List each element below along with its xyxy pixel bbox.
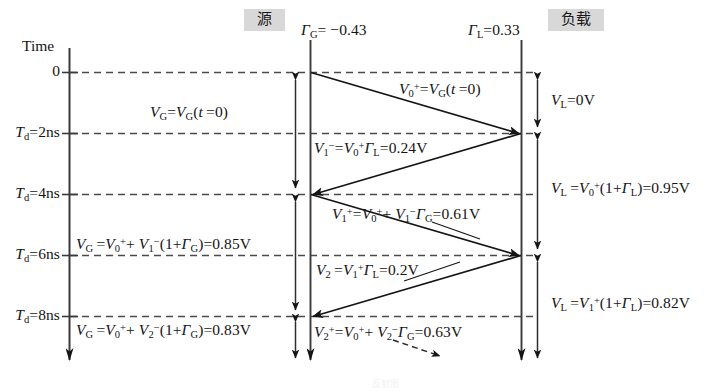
time-axis-title: Time <box>22 38 54 54</box>
time-axis <box>62 48 78 360</box>
load-header: 负载 <box>548 9 604 31</box>
wave-label-v2-minus: V2 =V1+ΓL=0.2V <box>316 262 419 280</box>
bottom-caption: 反射图 <box>372 380 399 389</box>
gamma-g-label: ΓG= −0.43 <box>301 22 367 40</box>
vl-label-first: VL =V0+(1+ΓL)=0.95V <box>551 180 690 198</box>
wave-label-v2-plus: V2+=V0++ V2−ΓG=0.63V <box>314 324 462 342</box>
tick-label-6ns: Td=6ns <box>0 246 60 264</box>
tick-label-8ns: Td=8ns <box>0 307 60 325</box>
vl-label-zero: VL=0V <box>551 92 595 110</box>
tick-label-0: 0 <box>24 63 60 79</box>
tick-label-2ns: Td=2ns <box>0 124 60 142</box>
gamma-l-label: ΓL=0.33 <box>468 22 520 40</box>
vl-label-second: VL =V1+(1+ΓL)=0.82V <box>551 295 690 313</box>
wave-label-v1-plus: V1+=V0++ V1−ΓG=0.61V <box>332 206 480 224</box>
vg-label-initial: VG=VG(t =0) <box>150 104 228 122</box>
tick-label-4ns: Td=4ns <box>0 185 60 203</box>
wave-v1-plus <box>311 195 519 256</box>
vg-label-second: VG =V0++ V1−(1+ΓG)=0.85V <box>76 236 251 254</box>
wave-label-v0-plus: V0+=VG(t =0) <box>399 81 481 99</box>
source-header: 源 <box>244 9 285 31</box>
wave-label-v1-minus: V1−=V0+ΓL=0.24V <box>314 140 427 158</box>
vg-label-third: VG =V0++ V2−(1+ΓG)=0.83V <box>76 322 251 340</box>
time-gridlines <box>70 73 536 317</box>
bounce-diagram: 源 负载 ΓG= −0.43 ΓL=0.33 Time 0 Td=2ns Td=… <box>0 0 717 392</box>
